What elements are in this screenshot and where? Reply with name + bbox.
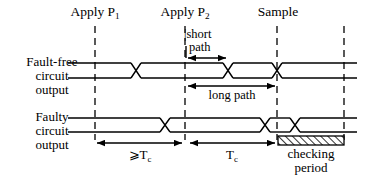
annotation-long-path: long path — [209, 89, 256, 102]
event-label-apply-p1: Apply P1 — [70, 5, 119, 19]
event-label-apply-p1-text: Apply — [70, 4, 104, 19]
annotation-short-path: |short path — [184, 28, 212, 55]
event-label-sample: Sample — [258, 5, 299, 19]
waveform-label-faulty: Faulty circuit output — [35, 110, 68, 151]
event-label-apply-p1-subscript: 1 — [115, 11, 120, 21]
annotation-short-path-line-2: path — [184, 41, 212, 54]
event-label-apply-p2: Apply P2 — [160, 5, 209, 19]
timing-diagram-figure: Apply P1 Apply P2 Sample Fault-free circ… — [0, 0, 369, 182]
measurement-label-ge-tc-subscript: c — [148, 154, 152, 164]
event-label-apply-p1-symbol: P — [108, 4, 116, 19]
event-label-apply-p2-text: Apply — [160, 4, 194, 19]
annotation-short-path-line-1: |short — [184, 28, 212, 41]
event-label-sample-text: Sample — [258, 4, 299, 19]
measurement-label-ge-tc-prefix: ⩾ — [129, 147, 140, 162]
waveform-label-faulty-line-3: output — [35, 138, 68, 152]
measurement-label-tc: Tc — [226, 148, 238, 162]
event-marker-lines — [95, 26, 344, 140]
waveform-label-fault-free: Fault-free circuit output — [26, 55, 77, 96]
waveform-faulty — [68, 118, 357, 132]
measurement-label-checking-period-line-2: period — [288, 161, 335, 175]
checking-period-box — [278, 136, 344, 145]
waveform-label-fault-free-line-2: circuit — [26, 69, 77, 83]
event-label-apply-p2-symbol: P — [198, 4, 206, 19]
annotation-long-path-line-1: long path — [209, 88, 256, 102]
waveform-label-faulty-line-2: circuit — [35, 124, 68, 138]
waveform-label-fault-free-line-3: output — [26, 83, 77, 97]
event-label-apply-p2-subscript: 2 — [205, 11, 210, 21]
measurement-label-checking-period: checking period — [288, 147, 335, 175]
measurement-label-checking-period-line-1: checking — [288, 147, 335, 161]
waveform-label-fault-free-line-1: Fault-free — [26, 55, 77, 69]
measurement-label-ge-tc-symbol: T — [140, 147, 148, 162]
measurement-label-ge-tc: ⩾Tc — [129, 148, 152, 162]
measurement-label-tc-symbol: T — [226, 147, 234, 162]
measurement-label-tc-subscript: c — [234, 154, 238, 164]
waveform-label-faulty-line-1: Faulty — [35, 110, 68, 124]
waveform-fault-free — [68, 63, 357, 78]
